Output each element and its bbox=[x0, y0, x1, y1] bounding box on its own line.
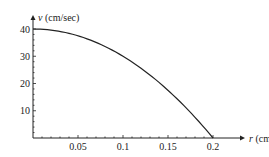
y-tick-label: 10 bbox=[20, 105, 30, 116]
x-axis-arrow-icon bbox=[240, 136, 245, 141]
x-tick-label: 0.05 bbox=[69, 141, 87, 152]
x-tick-label: 0.15 bbox=[159, 141, 177, 152]
x-tick-label: 0.1 bbox=[117, 141, 130, 152]
y-axis-label: v (cm/sec) bbox=[38, 12, 79, 24]
y-tick-label: 30 bbox=[20, 51, 30, 62]
x-axis-label: r (cm) bbox=[249, 133, 269, 145]
data-series-line bbox=[33, 29, 213, 138]
y-tick-label: 20 bbox=[20, 78, 30, 89]
y-tick-label: 40 bbox=[20, 24, 30, 35]
x-tick-label: 0.2 bbox=[207, 141, 220, 152]
y-axis-arrow-icon bbox=[31, 15, 36, 20]
chart: 0.050.10.150.210203040r (cm)v (cm/sec) bbox=[0, 0, 269, 157]
